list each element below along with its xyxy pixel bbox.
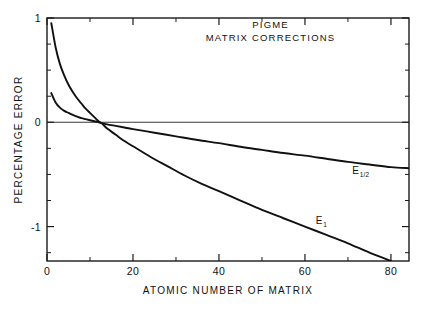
curve-label-subscript: 1 — [323, 221, 327, 228]
data-curve-e-1 — [51, 23, 391, 261]
chart-plot: 02040608010-1E1E1/2PIGMEMATRIX CORRECTIO… — [0, 0, 431, 314]
annotation-line-1: PIGME — [252, 19, 289, 30]
curve-label-e-1: E1 — [316, 215, 327, 228]
y-axis-title: PERCENTAGE ERROR — [13, 76, 24, 204]
x-axis-title: ATOMIC NUMBER OF MATRIX — [143, 285, 313, 296]
figure-canvas: 02040608010-1E1E1/2PIGMEMATRIX CORRECTIO… — [0, 0, 431, 314]
annotation-line-2: MATRIX CORRECTIONS — [206, 32, 336, 43]
curve-label-e-1-2: E1/2 — [352, 165, 369, 178]
x-tick-label: 80 — [385, 265, 397, 277]
curve-label-subscript: 1/2 — [360, 171, 370, 178]
curve-label-base: E1/2 — [352, 165, 369, 178]
y-tick-label: 0 — [35, 116, 41, 128]
curve-label-base: E1 — [316, 215, 327, 228]
x-tick-label: 60 — [299, 265, 311, 277]
y-tick-label: 1 — [35, 12, 41, 24]
plot-frame — [47, 18, 409, 261]
y-tick-label: -1 — [31, 221, 41, 233]
x-tick-label: 0 — [44, 265, 50, 277]
x-tick-label: 20 — [127, 265, 139, 277]
x-tick-label: 40 — [213, 265, 225, 277]
data-curve-e-1-2 — [51, 93, 409, 168]
